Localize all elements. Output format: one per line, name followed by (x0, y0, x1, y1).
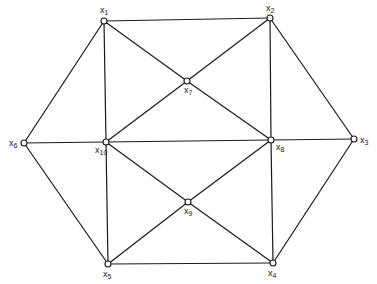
edge-x10-x9 (106, 142, 188, 202)
edge-x10-x8 (106, 140, 271, 142)
node-x9 (185, 199, 191, 205)
edge-x2-x8 (270, 18, 271, 140)
node-x1 (101, 18, 107, 24)
edge-x10-x5 (106, 142, 108, 264)
edge-x1-x2 (104, 18, 270, 21)
edge-x9-x5 (108, 202, 188, 264)
node-x3 (351, 136, 357, 142)
label-x6: x6 (9, 138, 18, 149)
node-x4 (270, 260, 276, 266)
edge-x8-x9 (188, 140, 271, 202)
node-x8 (268, 137, 274, 143)
edge-x2-x7 (187, 18, 270, 81)
edge-x4-x5 (108, 263, 273, 264)
node-x7 (184, 78, 190, 84)
label-x1: x1 (100, 5, 109, 16)
node-x2 (267, 15, 273, 21)
label-x9: x9 (184, 206, 193, 217)
label-x2: x2 (266, 3, 275, 14)
label-x8: x8 (276, 142, 285, 153)
label-x5: x5 (103, 269, 112, 280)
label-x4: x4 (268, 268, 277, 279)
edges-layer (24, 18, 354, 264)
node-x6 (21, 140, 27, 146)
node-x5 (105, 261, 111, 267)
edge-x7-x8 (187, 81, 271, 140)
node-x10 (103, 139, 109, 145)
label-x3: x3 (360, 135, 369, 146)
edge-x5-x6 (24, 143, 108, 264)
edge-x1-x7 (104, 21, 187, 81)
edge-x3-x4 (273, 139, 354, 263)
edge-x2-x3 (270, 18, 354, 139)
edge-x1-x10 (104, 21, 106, 142)
edge-x9-x4 (188, 202, 273, 263)
label-x7: x7 (184, 85, 193, 96)
edge-x6-x1 (24, 21, 104, 143)
edge-x7-x10 (106, 81, 187, 142)
edge-x6-x10 (24, 142, 106, 143)
edge-x8-x4 (271, 140, 273, 263)
edge-x8-x3 (271, 139, 354, 140)
graph-diagram: x1x2x3x4x5x6x7x8x9x10 (0, 0, 377, 284)
